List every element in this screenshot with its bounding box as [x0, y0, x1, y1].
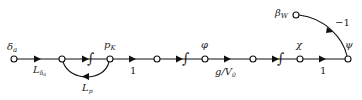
node-psi [345, 56, 351, 62]
node-chi [297, 56, 303, 62]
node-6 [250, 56, 256, 62]
label-chi: χ [295, 39, 303, 50]
node-4 [154, 56, 160, 62]
gain-l-p: Lp [81, 82, 93, 95]
node-pk [107, 56, 113, 62]
label-beta-w: βW [274, 7, 289, 20]
node-2 [59, 56, 65, 62]
integrator-3: ∫ [277, 50, 284, 66]
integrator-1: ∫ [87, 50, 94, 66]
node-delta-a [11, 56, 17, 62]
label-psi: ψ [345, 39, 353, 50]
signal-flow-graph: ∫ ∫ ∫ δa pK φ χ ψ βW Lδa Lp 1 g/V0 1 −1 [0, 0, 362, 100]
integrator-2: ∫ [182, 50, 189, 66]
node-beta-w [293, 12, 299, 18]
node-phi [202, 56, 208, 62]
gain-1a: 1 [130, 65, 136, 76]
label-pk: pK [104, 39, 116, 52]
gain-1b: 1 [320, 65, 326, 76]
label-delta: δa [7, 41, 17, 54]
gain-g-v0: g/V0 [215, 66, 236, 78]
gain-neg1: −1 [335, 17, 350, 28]
gain-l-delta: Lδa [32, 64, 46, 77]
label-phi: φ [201, 39, 208, 50]
